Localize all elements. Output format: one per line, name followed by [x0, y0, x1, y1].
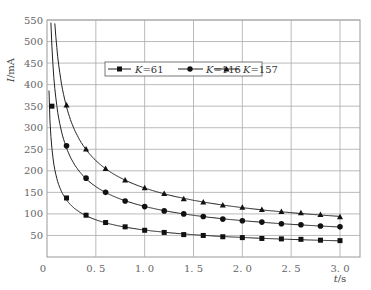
fit-curves — [49, 23, 340, 241]
square-marker-icon — [220, 234, 225, 239]
square-marker-icon — [49, 104, 54, 109]
square-marker-icon — [117, 67, 122, 72]
y-tick-label: 100 — [24, 208, 43, 219]
y-tick-label: 200 — [24, 165, 43, 176]
y-tick-label: 550 — [24, 15, 43, 26]
legend: K=61 K=116 K=157 — [105, 62, 278, 76]
square-marker-icon — [338, 238, 343, 243]
x-tick-label: 1. 0 — [135, 263, 154, 274]
y-tick-label: 350 — [24, 101, 43, 112]
data-points — [49, 102, 343, 243]
triangle-marker-icon — [298, 210, 304, 216]
square-marker-icon — [123, 224, 128, 229]
circle-marker-icon — [259, 219, 265, 225]
x-axis-label: t/s — [334, 273, 347, 284]
square-marker-icon — [279, 236, 284, 241]
x-tick-label: 1. 5 — [184, 263, 203, 274]
square-marker-icon — [142, 228, 147, 233]
square-marker-icon — [318, 238, 323, 243]
triangle-marker-icon — [64, 102, 70, 108]
grid — [47, 20, 360, 257]
circle-marker-icon — [64, 143, 70, 149]
y-tick-label: 450 — [24, 58, 43, 69]
square-marker-icon — [298, 237, 303, 242]
x-tick-label: 2. 0 — [233, 263, 252, 274]
fit-curve-k116 — [51, 23, 340, 227]
y-tick-label: 50 — [30, 230, 43, 241]
fit-curve-k61 — [49, 91, 340, 241]
current-time-chart: 5010015020025030035040045050055000. 51. … — [0, 0, 371, 290]
square-marker-icon — [64, 195, 69, 200]
y-axis-label: I/mA — [5, 57, 16, 83]
square-marker-icon — [103, 220, 108, 225]
x-tick-label: 0 — [40, 263, 46, 274]
x-tick-label: 2. 5 — [282, 263, 301, 274]
circle-marker-icon — [161, 208, 167, 214]
circle-marker-icon — [298, 222, 304, 228]
square-marker-icon — [201, 233, 206, 238]
circle-marker-icon — [83, 175, 89, 181]
square-marker-icon — [259, 236, 264, 241]
square-marker-icon — [84, 213, 89, 218]
square-marker-icon — [240, 235, 245, 240]
circle-marker-icon — [318, 223, 324, 229]
circle-marker-icon — [279, 221, 285, 227]
circle-marker-icon — [122, 198, 128, 204]
x-tick-label: 0. 5 — [86, 263, 105, 274]
circle-marker-icon — [240, 218, 246, 224]
circle-marker-icon — [142, 204, 148, 210]
circle-marker-icon — [181, 211, 187, 217]
square-marker-icon — [162, 230, 167, 235]
triangle-marker-icon — [317, 212, 323, 218]
circle-marker-icon — [187, 66, 192, 71]
circle-marker-icon — [200, 214, 206, 220]
triangle-marker-icon — [103, 165, 109, 171]
square-marker-icon — [181, 232, 186, 237]
triangle-marker-icon — [122, 177, 128, 183]
svg-text:K=61: K=61 — [134, 64, 164, 75]
y-tick-label: 250 — [24, 144, 43, 155]
circle-marker-icon — [103, 190, 109, 196]
y-tick-label: 300 — [24, 122, 43, 133]
circle-marker-icon — [220, 216, 226, 222]
y-tick-label: 150 — [24, 187, 43, 198]
circle-marker-icon — [337, 224, 343, 230]
y-tick-label: 400 — [24, 79, 43, 90]
y-tick-label: 500 — [24, 36, 43, 47]
svg-text:K=157: K=157 — [242, 64, 278, 75]
